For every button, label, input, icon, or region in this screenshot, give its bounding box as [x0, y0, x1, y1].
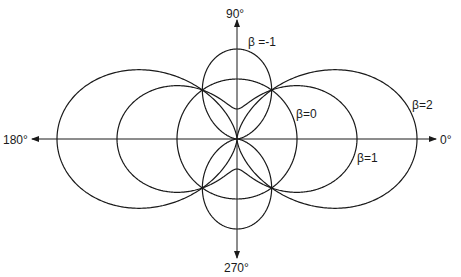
- axis-label-90: 90°: [226, 7, 244, 21]
- axis-label-180: 180°: [3, 133, 28, 147]
- curve-label-beta-minus1: β =-1: [248, 35, 276, 49]
- axis-label-270: 270°: [224, 261, 249, 275]
- curve-label-beta-1: β=1: [357, 151, 378, 165]
- polar-diagram: 0° 90° 180° 270° β =-1 β=0 β=1 β=2: [0, 0, 461, 277]
- axis-label-0: 0°: [440, 133, 452, 147]
- curve-label-beta-2: β=2: [412, 98, 433, 112]
- labels: 0° 90° 180° 270° β =-1 β=0 β=1 β=2: [3, 7, 452, 275]
- curve-label-beta-0: β=0: [296, 107, 317, 121]
